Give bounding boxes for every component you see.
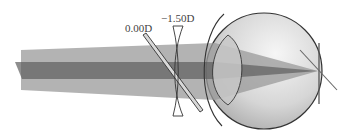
concave-lens-label: −1.50D bbox=[161, 12, 194, 24]
plano-lens-label: 0.00D bbox=[125, 22, 152, 34]
eye-optics-diagram: 0.00D −1.50D bbox=[0, 0, 350, 137]
